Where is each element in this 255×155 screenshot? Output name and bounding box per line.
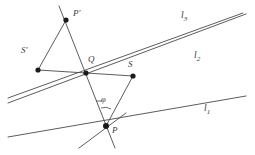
label-line-l1-subscript: 1 xyxy=(207,108,211,116)
segment-oblique-through-p xyxy=(79,113,126,148)
label-point-s: S xyxy=(128,60,133,69)
label-point-p: P xyxy=(112,126,118,135)
label-angle-phi: φ xyxy=(101,95,106,104)
label-point-s-prime: S′ xyxy=(21,46,27,55)
segment-sprime-to-q xyxy=(38,70,86,73)
point-p xyxy=(103,123,109,129)
point-s-prime xyxy=(35,67,40,72)
angle-phi-arc xyxy=(101,107,111,109)
lines-group xyxy=(8,13,246,137)
label-line-l1: l1 xyxy=(204,104,210,116)
points-group xyxy=(35,17,135,129)
geometry-canvas xyxy=(0,0,255,155)
label-line-l2-subscript: 2 xyxy=(197,55,201,63)
label-line-l3-subscript: 3 xyxy=(184,15,188,23)
line-l2 xyxy=(8,14,246,103)
geometry-diagram: P′ S′ Q S P φ l1 l2 l3 xyxy=(0,0,255,155)
label-point-p-prime: P′ xyxy=(73,9,80,18)
construction-lines-group xyxy=(38,6,133,148)
point-q xyxy=(83,70,88,75)
line-l1 xyxy=(8,96,246,137)
segment-pprime-to-sprime xyxy=(38,20,66,70)
label-line-l2: l2 xyxy=(194,51,200,63)
segment-q-to-s xyxy=(86,73,133,76)
line-l3 xyxy=(8,13,243,98)
point-p-prime xyxy=(63,17,68,22)
label-line-l3: l3 xyxy=(181,11,187,23)
segment-s-to-p xyxy=(106,76,133,126)
point-s xyxy=(130,73,135,78)
label-point-q: Q xyxy=(88,55,95,64)
